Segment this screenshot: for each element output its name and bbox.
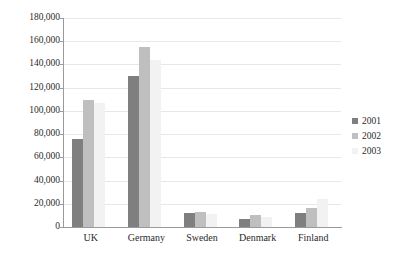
chart-legend: 200120022003 — [352, 113, 404, 158]
bar-sweden-2001 — [184, 213, 195, 227]
legend-label-2003: 2003 — [362, 146, 381, 156]
bar-finland-2001 — [295, 213, 306, 227]
x-axis-category-labels: UKGermanySwedenDenmarkFinland — [63, 231, 341, 251]
bar-group — [295, 18, 328, 227]
bar-denmark-2003 — [261, 217, 272, 227]
legend-swatch-2001-icon — [352, 118, 358, 124]
y-axis-tick-label: 0 — [2, 222, 60, 231]
legend-label-2001: 2001 — [362, 116, 381, 126]
bar-uk-2001 — [72, 139, 83, 227]
y-axis-tick-label: 180,000 — [2, 13, 60, 22]
bar-sweden-2002 — [195, 212, 206, 227]
bar-sweden-2003 — [206, 214, 217, 227]
y-axis-tick-label: 40,000 — [2, 176, 60, 185]
bar-denmark-2002 — [250, 215, 261, 227]
y-axis-tick-labels: 020,00040,00060,00080,000100,000120,0001… — [0, 0, 60, 267]
bar-germany-2002 — [139, 47, 150, 227]
y-axis-tick-label: 20,000 — [2, 199, 60, 208]
y-axis-tick-label: 140,000 — [2, 59, 60, 68]
x-axis-label-uk: UK — [63, 231, 119, 245]
y-axis-tick-label: 100,000 — [2, 106, 60, 115]
x-axis-label-denmark: Denmark — [230, 231, 286, 245]
x-axis-label-finland: Finland — [285, 231, 341, 245]
bar-group — [184, 18, 217, 227]
x-axis-line — [63, 227, 342, 228]
legend-item-2001[interactable]: 2001 — [352, 113, 404, 128]
bar-denmark-2001 — [239, 219, 250, 227]
legend-item-2003[interactable]: 2003 — [352, 143, 404, 158]
bar-finland-2002 — [306, 208, 317, 227]
y-axis-tick-label: 60,000 — [2, 152, 60, 161]
legend-item-2002[interactable]: 2002 — [352, 128, 404, 143]
bar-finland-2003 — [317, 199, 328, 227]
bar-group — [239, 18, 272, 227]
bar-group — [128, 18, 161, 227]
plot-area — [63, 18, 341, 227]
bar-chart: 020,00040,00060,00080,000100,000120,0001… — [0, 0, 404, 267]
y-axis-tick-label: 160,000 — [2, 36, 60, 45]
bar-germany-2003 — [150, 60, 161, 227]
y-axis-tick-label: 80,000 — [2, 129, 60, 138]
x-axis-label-germany: Germany — [119, 231, 175, 245]
bar-uk-2002 — [83, 100, 94, 227]
x-axis-label-sweden: Sweden — [174, 231, 230, 245]
bar-group — [72, 18, 105, 227]
legend-swatch-2003-icon — [352, 148, 358, 154]
bar-germany-2001 — [128, 76, 139, 227]
legend-swatch-2002-icon — [352, 133, 358, 139]
legend-label-2002: 2002 — [362, 131, 381, 141]
bar-uk-2003 — [94, 103, 105, 227]
y-axis-tick-label: 120,000 — [2, 83, 60, 92]
